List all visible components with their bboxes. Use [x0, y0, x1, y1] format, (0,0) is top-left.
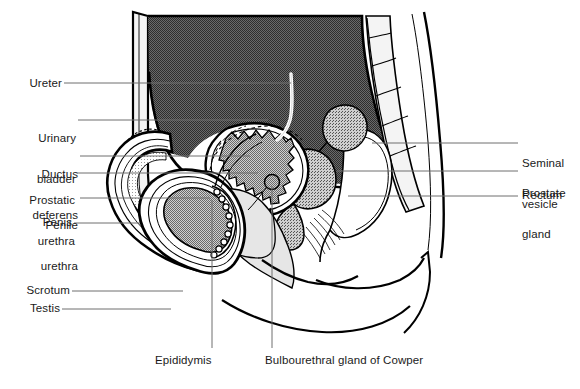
label-penis: Penis — [0, 216, 72, 230]
label-bulbourethral-gland: Bulbourethral gland of Cowper — [265, 354, 485, 368]
label-prostate-gland: Prostate gland — [522, 160, 580, 268]
anatomy-illustration — [0, 0, 580, 389]
seminal-vesicle — [323, 105, 367, 151]
label-penile-urethra-line2: urethra — [0, 260, 78, 274]
label-prostate-gland-line2: gland — [522, 228, 580, 242]
label-scrotum: Scrotum — [0, 284, 70, 298]
anatomical-figure: Ureter Urinary bladder Ductus deferens P… — [0, 0, 580, 389]
label-ureter: Ureter — [0, 77, 62, 91]
label-testis: Testis — [0, 302, 60, 316]
label-epididymis: Epididymis — [155, 354, 245, 368]
label-rectum: Rectum — [522, 189, 580, 203]
